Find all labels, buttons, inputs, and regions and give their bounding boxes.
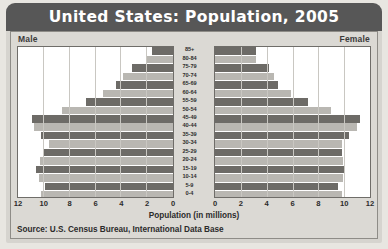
bar-female-80-84 <box>215 56 256 64</box>
source-note: Source: U.S. Census Bureau, Internationa… <box>11 225 224 234</box>
bar-female-85+ <box>215 47 256 55</box>
bar-male-0-4 <box>41 191 173 198</box>
xtick-female-2: 2 <box>239 199 243 208</box>
gridline-4 <box>120 47 121 197</box>
gridline-2 <box>241 47 242 197</box>
xtick-male-6: 6 <box>93 199 97 208</box>
chart-card: United States: Population, 2005 Male Fem… <box>6 3 382 243</box>
bar-male-10-14 <box>39 174 173 182</box>
bar-female-65-69 <box>215 81 278 89</box>
bar-male-65-69 <box>116 81 173 89</box>
bar-male-75-79 <box>132 64 173 72</box>
bar-female-20-24 <box>215 157 343 165</box>
x-axis-title: Population (in millions) <box>11 211 377 220</box>
age-label-20-24: 20-24 <box>170 156 209 164</box>
bar-female-15-19 <box>215 166 345 174</box>
age-label-70-74: 70-74 <box>170 72 209 80</box>
age-label-25-29: 25-29 <box>170 148 209 156</box>
xtick-female-10: 10 <box>340 199 348 208</box>
bar-female-60-64 <box>215 90 291 98</box>
female-plot-area <box>214 46 371 198</box>
age-label-80-84: 80-84 <box>170 55 209 63</box>
bar-male-25-29 <box>44 149 173 157</box>
page-title: United States: Population, 2005 <box>49 8 340 26</box>
bar-male-40-44 <box>34 123 174 131</box>
xtick-male-4: 4 <box>119 199 123 208</box>
xtick-female-12: 12 <box>366 199 374 208</box>
gridline-8 <box>318 47 319 197</box>
bar-female-75-79 <box>215 64 269 72</box>
age-label-85+: 85+ <box>170 46 209 54</box>
bar-female-40-44 <box>215 123 357 131</box>
bar-female-45-49 <box>215 115 360 123</box>
age-group-axis: 85+80-8475-7970-7465-6960-6455-5950-5445… <box>170 46 209 198</box>
age-label-45-49: 45-49 <box>170 114 209 122</box>
chart-panel: Male Female 85+80-8475-7970-7465-6960-64… <box>10 31 378 239</box>
gridline-6 <box>293 47 294 197</box>
male-bar-group <box>18 47 173 197</box>
age-label-75-79: 75-79 <box>170 63 209 71</box>
gridline-6 <box>95 47 96 197</box>
male-plot-area <box>17 46 174 198</box>
age-label-40-44: 40-44 <box>170 122 209 130</box>
age-label-5-9: 5-9 <box>170 182 209 190</box>
bar-female-10-14 <box>215 174 343 182</box>
bar-male-15-19 <box>36 166 173 174</box>
bar-female-55-59 <box>215 98 308 106</box>
age-label-10-14: 10-14 <box>170 173 209 181</box>
xtick-female-6: 6 <box>290 199 294 208</box>
bar-male-45-49 <box>32 115 173 123</box>
bar-female-35-39 <box>215 132 349 140</box>
xtick-female-4: 4 <box>265 199 269 208</box>
bar-male-5-9 <box>45 183 173 191</box>
xtick-male-0: 0 <box>171 199 175 208</box>
xtick-male-8: 8 <box>68 199 72 208</box>
age-label-15-19: 15-19 <box>170 165 209 173</box>
age-label-65-69: 65-69 <box>170 80 209 88</box>
xtick-female-8: 8 <box>316 199 320 208</box>
xtick-male-12: 12 <box>14 199 22 208</box>
age-label-60-64: 60-64 <box>170 89 209 97</box>
bar-female-30-34 <box>215 140 342 148</box>
source-strip: Source: U.S. Census Bureau, Internationa… <box>10 221 378 239</box>
xtick-male-10: 10 <box>40 199 48 208</box>
bar-female-70-74 <box>215 73 274 81</box>
age-label-55-59: 55-59 <box>170 97 209 105</box>
gridline-2 <box>146 47 147 197</box>
bar-female-50-54 <box>215 107 331 115</box>
title-banner: United States: Population, 2005 <box>6 3 382 31</box>
xtick-female-0: 0 <box>213 199 217 208</box>
legend-female-label: Female <box>340 34 371 44</box>
gridline-8 <box>69 47 70 197</box>
bar-male-35-39 <box>41 132 173 140</box>
xtick-male-2: 2 <box>145 199 149 208</box>
bar-female-25-29 <box>215 149 342 157</box>
age-label-30-34: 30-34 <box>170 139 209 147</box>
bar-male-60-64 <box>103 90 173 98</box>
age-label-0-4: 0-4 <box>170 190 209 198</box>
bar-male-55-59 <box>86 98 173 106</box>
x-axis-ticks: 121086420024681012 <box>17 199 372 211</box>
bar-male-50-54 <box>62 107 173 115</box>
bar-male-70-74 <box>123 73 173 81</box>
gridline-10 <box>43 47 44 197</box>
bar-male-30-34 <box>49 140 173 148</box>
gridline-4 <box>267 47 268 197</box>
age-label-35-39: 35-39 <box>170 131 209 139</box>
gridline-10 <box>344 47 345 197</box>
legend-male-label: Male <box>18 34 38 44</box>
bar-male-20-24 <box>40 157 173 165</box>
age-label-50-54: 50-54 <box>170 106 209 114</box>
bar-female-0-4 <box>215 191 342 198</box>
